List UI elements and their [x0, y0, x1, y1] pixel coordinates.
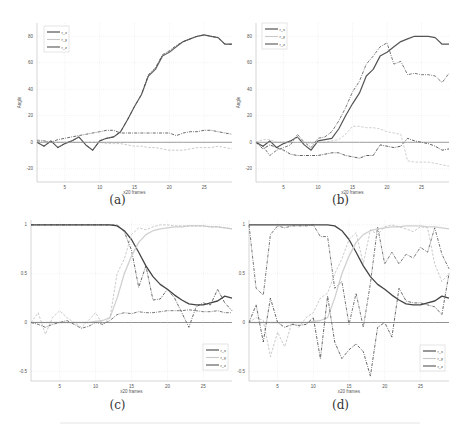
legend-entry: r_x [62, 30, 68, 35]
subplot-d: 510152025-0.500.51x20 framesr_xr_yr_z (d… [235, 215, 470, 430]
y-tick-label: 80 [28, 34, 34, 39]
subplot-a: 510152025-20020406080x20 framesAngler_xr… [0, 0, 235, 215]
faded-caption-line [60, 422, 420, 424]
x-tick-label: 5 [282, 185, 285, 190]
y-tick-label: 40 [28, 87, 34, 92]
series-line [256, 126, 449, 166]
legend-entry: r_x [280, 27, 286, 32]
x-tick-label: 25 [202, 185, 208, 190]
legend-entry: r_z [438, 364, 444, 369]
legend: r_xr_yr_z [420, 345, 445, 371]
legend-entry: r_z [280, 42, 286, 47]
y-tick-label: 0 [24, 320, 27, 325]
y-tick-label: 1 [24, 222, 27, 227]
x-tick-label: 5 [58, 384, 61, 389]
caption-d: (d) [223, 398, 458, 412]
legend-entry: r_y [280, 34, 286, 39]
y-tick-label: 40 [247, 87, 253, 92]
legend: r_xr_yr_z [262, 23, 287, 49]
y-tick-label: 60 [247, 60, 253, 65]
x-tick-label: 25 [201, 384, 207, 389]
y-tick-label: 0 [30, 140, 33, 145]
chart-b: 510152025-20020406080x20 framesAngler_xr… [235, 0, 470, 215]
legend-entry: r_y [221, 355, 227, 360]
y-tick-label: 0 [249, 140, 252, 145]
x-tick-label: 20 [165, 384, 171, 389]
y-tick-label: -0.5 [237, 369, 245, 374]
legend-entry: r_x [221, 348, 227, 353]
series-line [31, 225, 232, 334]
x-tick-label: 5 [64, 185, 67, 190]
legend: r_xr_yr_z [203, 344, 228, 370]
legend-entry: r_x [438, 349, 444, 354]
x-tick-label: 10 [311, 384, 317, 389]
y-tick-label: 1 [242, 222, 245, 227]
x-tick-label: 20 [382, 384, 388, 389]
y-tick-label: 20 [28, 113, 34, 118]
y-tick-label: -20 [26, 166, 33, 171]
legend-entry: r_z [221, 363, 227, 368]
x-tick-label: 10 [97, 185, 103, 190]
x-tick-label: 5 [276, 384, 279, 389]
legend: r_xr_yr_z [44, 26, 69, 52]
series-line [37, 130, 232, 142]
x-axis-label: x20 frames [120, 389, 143, 394]
y-tick-label: 0 [242, 320, 245, 325]
x-axis-label: x20 frames [338, 389, 361, 394]
subplot-c: 510152025-0.500.51x20 framesr_xr_yr_z (c… [0, 215, 235, 430]
legend-entry: r_z [62, 45, 68, 50]
x-tick-label: 20 [384, 185, 390, 190]
caption-c: (c) [0, 398, 235, 412]
x-tick-label: 20 [167, 185, 173, 190]
y-tick-label: 20 [247, 113, 253, 118]
legend-entry: r_y [438, 356, 444, 361]
x-tick-label: 25 [419, 185, 425, 190]
subplot-b: 510152025-20020406080x20 framesAngler_xr… [235, 0, 470, 215]
y-tick-label: 0.5 [21, 271, 28, 276]
y-tick-label: 0.5 [239, 271, 246, 276]
x-tick-label: 10 [93, 384, 99, 389]
y-tick-label: 60 [28, 60, 34, 65]
y-axis-label: Angle [17, 96, 22, 108]
y-tick-label: -20 [245, 166, 252, 171]
chart-a: 510152025-20020406080x20 framesAngler_xr… [0, 0, 235, 215]
x-tick-label: 10 [316, 185, 322, 190]
y-tick-label: 80 [247, 34, 253, 39]
caption-b: (b) [223, 193, 458, 207]
x-tick-label: 25 [418, 384, 424, 389]
caption-a: (a) [0, 193, 235, 207]
legend-entry: r_y [62, 37, 68, 42]
y-tick-label: -0.5 [19, 369, 27, 374]
y-axis-label: Angle [236, 96, 241, 108]
